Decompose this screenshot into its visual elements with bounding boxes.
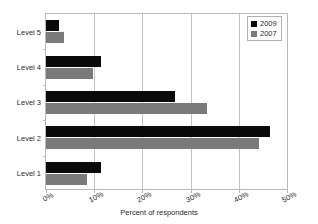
bar-2009-level-1 <box>46 162 101 173</box>
y-axis-label-level-4: Level 4 <box>17 63 41 72</box>
legend-label: 2007 <box>260 29 277 38</box>
chart-legend: 20092007 <box>247 16 282 41</box>
y-axis-label-level-3: Level 3 <box>17 98 41 107</box>
x-axis-tick <box>46 190 47 193</box>
y-axis-tick <box>43 85 46 86</box>
y-axis-label-level-1: Level 1 <box>17 169 41 178</box>
bar-2009-level-5 <box>46 20 59 31</box>
bar-2007-level-5 <box>46 32 64 43</box>
bar-2009-level-4 <box>46 56 101 67</box>
y-axis-label-level-2: Level 2 <box>17 133 41 142</box>
bar-2007-level-2 <box>46 138 259 149</box>
x-axis-tick <box>239 190 240 193</box>
bar-2009-level-3 <box>46 91 175 102</box>
y-axis-tick <box>43 156 46 157</box>
bar-2007-level-4 <box>46 68 93 79</box>
bar-2009-level-2 <box>46 126 270 137</box>
bar-2007-level-1 <box>46 174 87 185</box>
x-axis-tick-label: 30% <box>184 190 201 205</box>
y-axis-tick <box>43 120 46 121</box>
x-axis-tick-label: 10% <box>87 190 104 205</box>
legend-item-2009[interactable]: 2009 <box>251 19 277 28</box>
x-axis-tick-label: 50% <box>280 190 297 205</box>
legend-swatch-icon-2007 <box>251 31 257 37</box>
x-axis-tick-label: 40% <box>232 190 249 205</box>
x-axis-tick <box>94 190 95 193</box>
x-axis-tick <box>287 190 288 193</box>
y-axis-tick <box>43 49 46 50</box>
bar-group: Level 2 <box>46 120 287 155</box>
x-axis-tick <box>191 190 192 193</box>
bar-chart: Level 5Level 4Level 3Level 2Level 1 0%10… <box>0 0 318 224</box>
legend-swatch-icon-2009 <box>251 21 257 27</box>
bar-group: Level 1 <box>46 156 287 191</box>
bar-2007-level-3 <box>46 103 207 114</box>
y-axis-label-level-5: Level 5 <box>17 27 41 36</box>
bar-group: Level 3 <box>46 85 287 120</box>
x-axis-tick-label: 0% <box>41 191 55 204</box>
x-axis-tick <box>142 190 143 193</box>
legend-label: 2009 <box>260 19 277 28</box>
legend-item-2007[interactable]: 2007 <box>251 29 277 38</box>
x-axis-title: Percent of respondents <box>0 208 318 217</box>
x-axis-tick-label: 20% <box>136 190 153 205</box>
bar-group: Level 4 <box>46 49 287 84</box>
